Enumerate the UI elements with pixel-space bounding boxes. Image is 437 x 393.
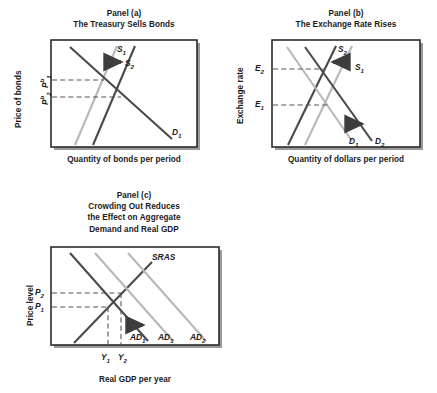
panel-a-x-axis-label: Quantity of bonds per period — [41, 155, 207, 164]
panel-a-supply-1-sub: 1 — [123, 49, 126, 56]
economics-figure: Panel (a) The Treasury Sells Bonds Price… — [0, 0, 437, 393]
panel-a-supply-2-sub: 2 — [131, 63, 134, 70]
panel-b-demand-2-label: D2 — [375, 136, 385, 146]
panel-a-price-2-sub: 2 — [45, 92, 52, 95]
panel-a-price-1-base: P — [40, 82, 50, 88]
panel-a-price-1-sup: b — [38, 79, 45, 83]
panel-b-title-line-2: The Exchange Rate Rises — [272, 19, 420, 30]
panel-a-supply-2-label: S2 — [125, 58, 134, 68]
panel-c-title: Panel (c) Crowding Out Reduces the Effec… — [43, 190, 225, 235]
panel-a-demand-1-label: D1 — [172, 127, 182, 137]
panel-a-price-1-sub: 1 — [45, 75, 52, 78]
panel-c-ad-1-base: AD — [130, 332, 142, 342]
panel-c-ad-2-label: AD2 — [190, 332, 206, 342]
panel-c-price-1-sub: 1 — [41, 306, 44, 313]
panel-b-rate-2-sub: 2 — [261, 68, 264, 75]
panel-b-rate-1-tick: E1 — [255, 99, 264, 109]
panel-c-sras-label: SRAS — [152, 252, 175, 262]
panel-c-output-2-tick: Y2 — [118, 352, 127, 362]
panel-b-supply-1-sub: 1 — [361, 67, 364, 74]
panel-b-demand-1-sub: 1 — [355, 141, 358, 148]
panel-b-supply-1-label: S1 — [355, 62, 364, 72]
panel-b-y-axis-label: Exchange rate — [236, 67, 245, 124]
panel-c-ad-3-base: AD — [158, 332, 170, 342]
panel-c-ad-3-label: AD3 — [158, 332, 174, 342]
panel-a-title-line-1: Panel (a) — [51, 8, 197, 19]
panel-a-demand-1-sub: 1 — [178, 132, 181, 139]
panel-b-rate-1-sub: 1 — [261, 104, 264, 111]
panel-c-ad-2-base: AD — [190, 332, 202, 342]
panel-a-title-line-2: The Treasury Sells Bonds — [51, 19, 197, 30]
panel-c-price-1-tick: P1 — [35, 301, 44, 311]
panel-c-price-2-tick: P2 — [35, 287, 44, 297]
panel-c-output-2-sub: 2 — [124, 357, 127, 364]
panel-a-title: Panel (a) The Treasury Sells Bonds — [51, 8, 197, 30]
panel-b-title-line-1: Panel (b) — [272, 8, 420, 19]
panel-c-sras-base: SRAS — [152, 252, 175, 262]
panel-c-output-1-tick: Y1 — [101, 352, 110, 362]
panel-a-price-2-tick: Pb2 — [40, 92, 50, 105]
panel-b-supply-2-sub: 2 — [344, 49, 347, 56]
panel-a-supply-1-label: S1 — [117, 44, 126, 54]
panel-b-x-axis-label: Quantity of dollars per period — [263, 155, 429, 164]
panel-b-supply-2-label: S2 — [338, 44, 347, 54]
panel-a-price-1-tick: Pb1 — [40, 75, 50, 88]
panel-b-demand-1-label: D1 — [349, 136, 359, 146]
panel-c-y-axis-label: Price level — [26, 285, 35, 326]
panel-c-output-1-sub: 1 — [107, 357, 110, 364]
panel-a-price-2-sup: b — [38, 96, 45, 100]
panel-b-rate-2-tick: E2 — [255, 63, 264, 73]
panel-c-ad-3-sub: 3 — [170, 337, 173, 344]
panel-c-title-line-2: Crowding Out Reduces — [43, 201, 225, 212]
panel-c-x-axis-label: Real GDP per year — [52, 375, 218, 384]
panel-a-y-axis-label: Price of bonds — [14, 70, 23, 128]
panel-c-ad-2-sub: 2 — [202, 337, 205, 344]
panel-c-ad-1-sub: 1 — [142, 337, 145, 344]
panel-c-title-line-4: Demand and Real GDP — [43, 224, 225, 235]
panel-c-ad-1-label: AD1 — [130, 332, 146, 342]
panel-c-title-line-3: the Effect on Aggregate — [43, 212, 225, 223]
panel-c-price-2-sub: 2 — [41, 292, 44, 299]
panel-a-price-2-base: P — [40, 99, 50, 105]
panel-b-plot — [272, 40, 423, 150]
panel-b-title: Panel (b) The Exchange Rate Rises — [272, 8, 420, 30]
panel-b-demand-2-sub: 2 — [381, 141, 384, 148]
panel-c-title-line-1: Panel (c) — [43, 190, 225, 201]
